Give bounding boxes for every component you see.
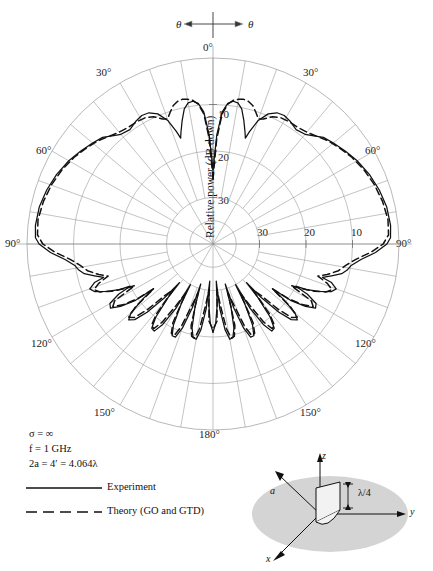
grid-spoke--10: [181, 61, 205, 198]
grid-spoke--20: [149, 69, 197, 200]
theta-direction-arrows: [184, 12, 243, 38]
grid-spoke--170: [181, 290, 205, 427]
pattern-curve-theory-go-and-gtd-left: [37, 99, 213, 338]
inset-label-y: y: [410, 506, 414, 517]
grid-spoke-10: [221, 61, 245, 198]
annotation-sigma: σ = ∞: [29, 428, 53, 439]
grid-spoke--160: [149, 288, 197, 419]
legend-label-theory: Theory (GO and GTD): [107, 505, 204, 516]
grid-spoke-70: [257, 180, 388, 228]
grid-spoke--100: [30, 252, 167, 276]
grid-spoke-80: [259, 212, 396, 236]
inset-label-x: x: [266, 553, 270, 564]
legend-label-experiment: Experiment: [107, 481, 156, 492]
inset-label-z: z: [322, 450, 326, 461]
grid-spoke-20: [229, 69, 277, 200]
grid-spoke-170: [221, 290, 245, 427]
pattern-curve-theory-go-and-gtd-right: [213, 99, 389, 338]
x-axis-arrow: [273, 551, 285, 561]
grid-spoke--110: [38, 260, 169, 308]
inset-geometry-diagram: [228, 452, 428, 571]
inset-label-lambda-quarter: λ/4: [358, 487, 371, 498]
grid-spoke-100: [259, 252, 396, 276]
inset-label-a: a: [270, 485, 275, 496]
a-direction-arrow: [275, 471, 284, 481]
grid-spoke-160: [229, 288, 277, 419]
polar-grid: [14, 12, 412, 430]
annotation-aperture: 2a = 4′ = 4.064λ: [29, 458, 98, 469]
polar-radiation-pattern-figure: θ θ Relative power (dB down) 0° 30° 30° …: [0, 0, 433, 571]
grid-spoke--70: [38, 180, 169, 228]
annotation-frequency: f = 1 GHz: [29, 443, 71, 454]
grid-spoke--80: [30, 212, 167, 236]
grid-spoke-110: [257, 260, 388, 308]
